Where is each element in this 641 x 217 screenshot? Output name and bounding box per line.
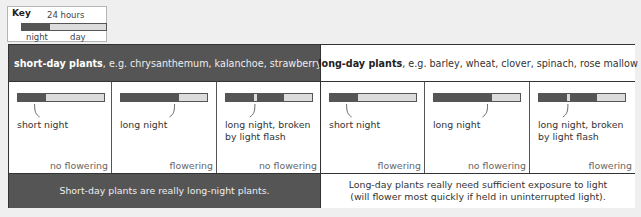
night-segment xyxy=(18,94,46,101)
night-segment xyxy=(434,94,492,101)
night-segment xyxy=(570,94,598,101)
day-segment xyxy=(179,94,207,101)
long-day-header: long-day plants, e.g. barley, wheat, clo… xyxy=(320,45,635,81)
condition-label: long night, brokenby light flash xyxy=(225,119,310,143)
flowering-outcome: no flowering xyxy=(468,160,526,171)
key-title: Key xyxy=(12,8,31,18)
condition-label-line1: short night xyxy=(17,119,68,131)
condition-label-line1: long night, broken xyxy=(225,119,310,131)
flowering-outcome: no flowering xyxy=(259,160,317,171)
key-day-label: day xyxy=(70,32,86,42)
key-night-segment xyxy=(22,24,50,30)
pointer-arrow-icon xyxy=(425,82,529,142)
condition-label: short night xyxy=(17,119,68,131)
flowering-outcome: flowering xyxy=(170,160,213,171)
condition-label: long night, brokenby light flash xyxy=(538,119,623,143)
long-day-conclusion: Long-day plants really need sufficient e… xyxy=(320,173,635,208)
condition-cell: long night, brokenby light flashflowerin… xyxy=(529,81,635,173)
long-day-title: long-day plants xyxy=(318,58,402,69)
short-day-conclusion-line1: Short-day plants are really long-night p… xyxy=(59,185,269,197)
short-day-title: short-day plants xyxy=(14,58,103,69)
condition-label-line2: by light flash xyxy=(538,131,623,143)
key-night-label: night xyxy=(26,32,48,42)
photoperiod-bar xyxy=(538,93,626,102)
key-duration-label: 24 hours xyxy=(47,10,84,20)
pointer-arrow-icon xyxy=(112,82,216,142)
condition-label: short night xyxy=(329,119,380,131)
short-day-conclusion: Short-day plants are really long-night p… xyxy=(9,173,320,208)
long-day-conclusion-line2: (will flower most quickly if held in uni… xyxy=(349,191,608,203)
short-day-header: short-day plants, e.g. chrysanthemum, ka… xyxy=(9,45,320,81)
flowering-outcome: flowering xyxy=(378,160,421,171)
condition-label-line1: long night xyxy=(433,119,480,131)
condition-cell: short nightflowering xyxy=(320,81,424,173)
condition-cell: long nightno flowering xyxy=(424,81,529,173)
day-segment xyxy=(597,94,625,101)
night-segment xyxy=(330,94,358,101)
key-bar xyxy=(21,23,107,31)
night-segment xyxy=(226,94,254,101)
condition-label-line1: long night xyxy=(120,119,167,131)
day-segment xyxy=(492,94,520,101)
day-segment xyxy=(358,94,416,101)
photoperiod-table: short-day plants, e.g. chrysanthemum, ka… xyxy=(8,44,635,208)
condition-cell: long nightflowering xyxy=(111,81,216,173)
photoperiod-bar xyxy=(17,93,105,102)
condition-cell: short nightno flowering xyxy=(9,81,111,173)
pointer-arrow-icon xyxy=(321,82,424,142)
photoperiod-bar xyxy=(433,93,521,102)
photoperiod-bar xyxy=(120,93,208,102)
condition-label-line2: by light flash xyxy=(225,131,310,143)
condition-cell: long night, brokenby light flashno flowe… xyxy=(216,81,320,173)
day-segment xyxy=(284,94,312,101)
photoperiod-bar xyxy=(329,93,417,102)
long-day-examples: , e.g. barley, wheat, clover, spinach, r… xyxy=(402,58,638,69)
legend-key: Key 24 hours night day xyxy=(7,6,107,42)
night-segment xyxy=(121,94,179,101)
long-day-conclusion-line1: Long-day plants really need sufficient e… xyxy=(349,179,608,191)
condition-label: long night xyxy=(433,119,480,131)
flowering-outcome: no flowering xyxy=(50,160,108,171)
night-segment xyxy=(539,94,567,101)
condition-label: long night xyxy=(120,119,167,131)
condition-label-line1: short night xyxy=(329,119,380,131)
day-segment xyxy=(46,94,104,101)
night-segment xyxy=(257,94,285,101)
flowering-outcome: flowering xyxy=(589,160,632,171)
condition-label-line1: long night, broken xyxy=(538,119,623,131)
pointer-arrow-icon xyxy=(9,82,111,142)
photoperiod-bar xyxy=(225,93,313,102)
key-day-segment xyxy=(50,24,106,30)
